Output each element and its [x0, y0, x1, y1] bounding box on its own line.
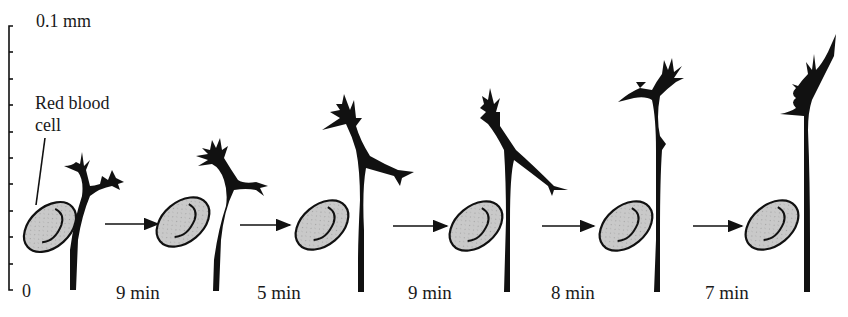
neuron-growth-cone-icon: [618, 58, 684, 292]
time-interval-label: 9 min: [408, 283, 452, 302]
red-blood-cell-label: Red blood cell: [35, 92, 145, 136]
red-blood-cell-label-line1: Red blood: [35, 92, 145, 114]
scale-bar: [9, 26, 13, 290]
panel-6: [736, 34, 836, 292]
red-blood-cell-icon: [590, 191, 662, 260]
red-blood-cell-icon: [286, 190, 358, 259]
time-interval-label: 9 min: [116, 283, 160, 302]
panel-2: [147, 138, 268, 291]
time-lapse-diagram: [0, 0, 848, 317]
panel-5: [590, 58, 684, 292]
neuron-growth-cone-icon: [480, 88, 568, 292]
red-blood-cell-icon: [440, 191, 512, 260]
neuron-growth-cone-icon: [322, 94, 414, 292]
panel-1: [14, 152, 124, 290]
time-interval-label: 7 min: [705, 283, 749, 302]
time-interval-label: 5 min: [257, 283, 301, 302]
time-interval-label: 8 min: [551, 283, 595, 302]
panel-3: [286, 94, 414, 292]
red-blood-cell-pointer: [36, 138, 45, 205]
red-blood-cell-icon: [736, 190, 808, 259]
scale-top-label: 0.1 mm: [36, 12, 91, 30]
scale-bottom-label: 0: [22, 282, 31, 300]
red-blood-cell-label-line2: cell: [35, 114, 145, 136]
panel-4: [440, 88, 568, 292]
red-blood-cell-icon: [147, 187, 219, 256]
neuron-growth-cone-icon: [780, 34, 836, 292]
